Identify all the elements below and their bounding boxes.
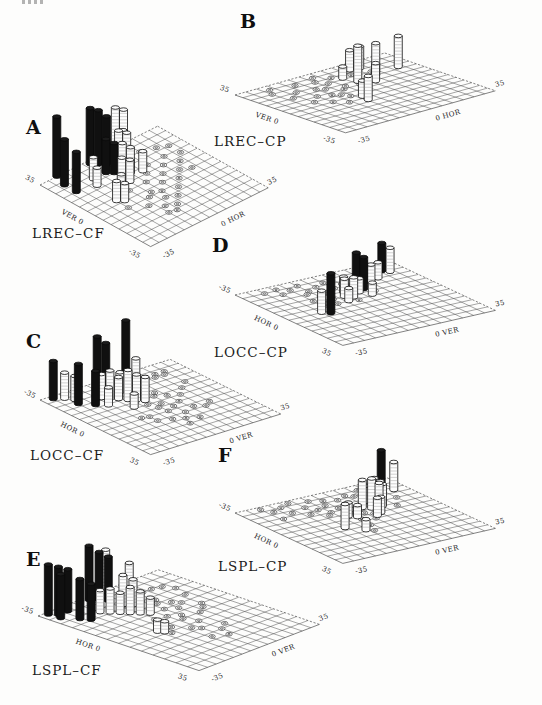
white-bar xyxy=(136,591,144,615)
axis-tick-label: -35 xyxy=(357,134,371,145)
zero-ring xyxy=(151,394,157,398)
axis-tick-label: 35 xyxy=(494,79,506,89)
zero-ring xyxy=(154,602,160,606)
black-bar xyxy=(110,143,118,175)
zero-ring xyxy=(145,403,151,407)
axis-tick-label: 35 xyxy=(219,84,231,95)
zero-ring xyxy=(311,100,317,104)
zero-ring xyxy=(329,93,335,97)
axis-tick-label: -35 xyxy=(210,672,225,684)
axis-tick-label: HOR 0 xyxy=(75,638,102,654)
axis-tick-label: -35 xyxy=(354,347,368,358)
zero-ring xyxy=(294,284,300,288)
black-bar xyxy=(57,574,65,620)
zero-ring xyxy=(338,93,344,97)
white-bar xyxy=(372,63,380,83)
white-bar xyxy=(126,160,134,184)
zero-ring xyxy=(178,601,184,605)
zero-ring xyxy=(226,632,232,636)
axis-tick-label: 35 xyxy=(177,672,189,683)
zero-ring xyxy=(335,506,341,510)
white-bar xyxy=(121,183,129,203)
zero-ring xyxy=(271,510,277,514)
zero-ring xyxy=(219,627,225,631)
zero-ring xyxy=(168,625,174,629)
zero-ring xyxy=(305,500,311,504)
black-bar xyxy=(72,152,80,194)
panel-a-letter: A xyxy=(26,118,41,137)
axis-tick-label: 0 VER xyxy=(271,643,297,659)
axis-tick-label: -35 xyxy=(322,134,336,146)
panel-c-plot: -35HOR 035-350 VER35 xyxy=(23,319,292,468)
zero-ring xyxy=(196,619,202,623)
zero-ring xyxy=(182,380,188,384)
zero-ring xyxy=(146,195,152,199)
zero-ring xyxy=(257,508,263,512)
white-bar xyxy=(364,76,372,102)
zero-ring xyxy=(320,499,326,503)
axis-tick-label: HOR 0 xyxy=(253,314,280,332)
axis-tick-label: -35 xyxy=(354,565,368,576)
zero-ring xyxy=(394,503,400,507)
zero-ring xyxy=(199,626,205,630)
black-bar xyxy=(102,139,110,175)
zero-ring xyxy=(147,415,153,419)
axis-tick-label: -35 xyxy=(161,247,176,260)
white-bar xyxy=(139,151,147,173)
zero-ring xyxy=(292,84,298,88)
zero-ring xyxy=(161,155,167,159)
zero-ring xyxy=(188,626,194,630)
white-bar xyxy=(106,588,114,614)
axis-tick-label: 35 xyxy=(494,516,505,526)
black-bar xyxy=(44,565,52,617)
axis-tick-label: 35 xyxy=(128,456,140,467)
panel-d-title: LOCC–CP xyxy=(214,346,288,360)
axis-tick-label: -35 xyxy=(20,604,34,616)
panel-f-title: LSPL–CP xyxy=(218,560,287,574)
zero-ring xyxy=(322,504,328,508)
white-bar xyxy=(126,587,134,615)
zero-ring xyxy=(173,586,179,590)
zero-ring xyxy=(206,399,212,403)
zero-ring xyxy=(326,514,332,518)
scanned-figure-page: 35VER 0-35-350 HOR3535VER 0-35-350 HOR35… xyxy=(0,0,542,705)
zero-ring xyxy=(176,168,182,172)
panel-a-title: LREC–CF xyxy=(32,227,105,241)
zero-ring xyxy=(198,601,204,605)
white-bar xyxy=(390,462,398,492)
axis-tick-label: 0 VER xyxy=(228,431,254,446)
zero-ring xyxy=(328,76,334,80)
black-bar xyxy=(92,371,100,407)
axis-tick-label: 35 xyxy=(318,612,330,623)
zero-ring xyxy=(322,87,328,91)
zero-ring xyxy=(174,202,180,206)
zero-ring xyxy=(180,617,186,621)
zero-ring xyxy=(162,204,168,208)
zero-ring xyxy=(182,593,188,597)
white-bar xyxy=(373,498,381,518)
zero-ring xyxy=(221,621,227,625)
white-bar xyxy=(115,377,123,401)
zero-ring xyxy=(179,386,185,390)
axis-tick-label: 0 HOR xyxy=(435,108,462,123)
panel-e-title: LSPL–CF xyxy=(32,664,102,678)
axis-tick-label: 35 xyxy=(279,402,291,413)
axis-tick-label: -35 xyxy=(127,247,142,260)
panel-c-letter: C xyxy=(26,332,41,351)
zero-ring xyxy=(170,417,176,421)
axis-tick-label: HOR 0 xyxy=(59,420,86,439)
zero-ring xyxy=(269,93,275,97)
zero-ring xyxy=(197,610,203,614)
zero-ring xyxy=(159,189,165,193)
zero-ring xyxy=(342,84,348,88)
zero-ring xyxy=(182,410,188,414)
panel-d-letter: D xyxy=(212,236,228,255)
zero-ring xyxy=(175,606,181,610)
zero-ring xyxy=(166,144,172,148)
axis-tick-label: 0 VER xyxy=(434,326,460,339)
zero-ring xyxy=(393,496,399,500)
zero-ring xyxy=(175,185,181,189)
zero-ring xyxy=(165,409,171,413)
white-bar xyxy=(113,181,121,203)
zero-ring xyxy=(371,528,377,532)
